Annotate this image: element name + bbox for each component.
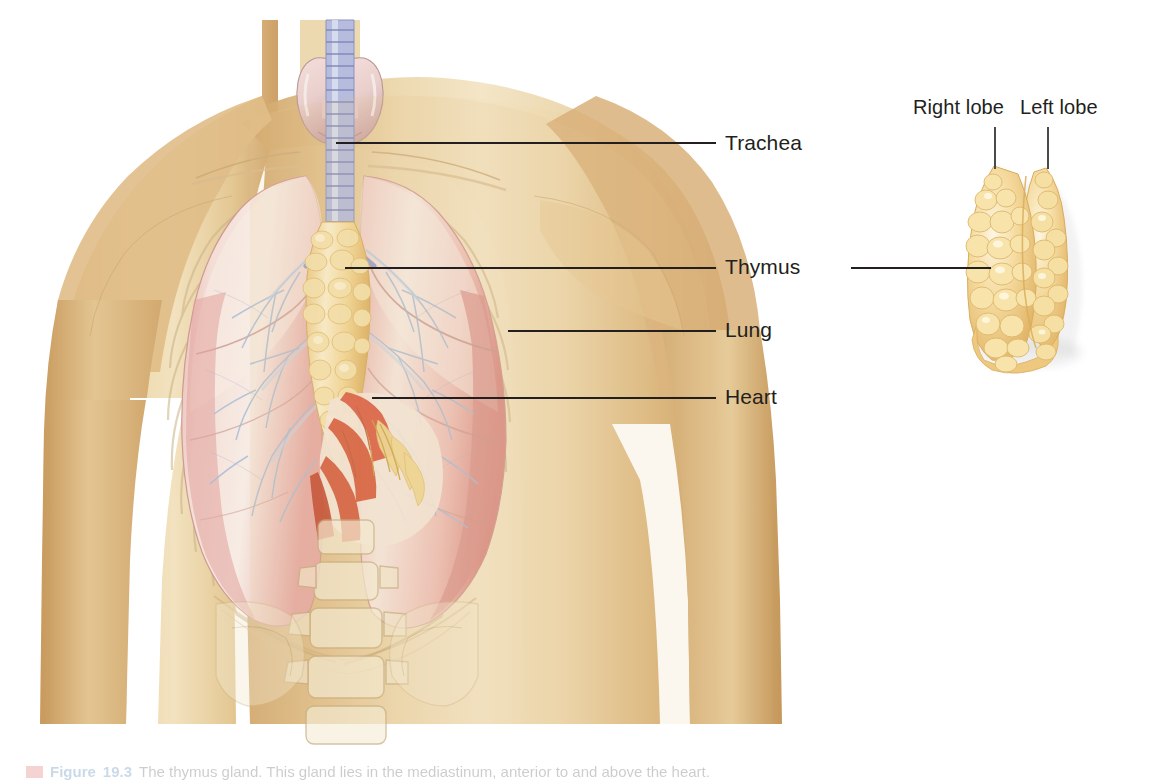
- thymus-detail-inset: [966, 166, 1082, 373]
- label-lung: Lung: [725, 318, 772, 342]
- caption-text: The thymus gland. This gland lies in the…: [139, 763, 710, 780]
- label-right-lobe: Right lobe: [913, 96, 1004, 119]
- caption-label: Figure: [50, 763, 96, 780]
- figure-caption: Figure 19.3 The thymus gland. This gland…: [26, 763, 1139, 780]
- caption-marker-icon: [26, 766, 43, 778]
- label-trachea: Trachea: [725, 131, 802, 155]
- label-heart: Heart: [725, 385, 777, 409]
- caption-number: 19.3: [103, 763, 132, 780]
- inset-pointers: [995, 127, 1048, 169]
- label-thymus: Thymus: [725, 255, 800, 279]
- label-left-lobe: Left lobe: [1020, 96, 1098, 119]
